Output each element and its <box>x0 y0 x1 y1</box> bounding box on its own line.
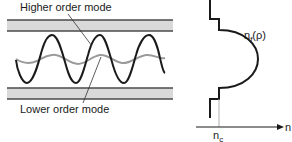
index-profile-curve <box>210 0 258 118</box>
bottom-cladding <box>7 88 173 99</box>
top-cladding <box>7 20 173 31</box>
profile-function-label: nf(ρ) <box>244 29 266 43</box>
fiber-mode-diagram <box>0 0 292 142</box>
n-axis-label: n <box>285 121 291 133</box>
lower-order-mode-label: Lower order mode <box>20 103 109 115</box>
profile-argument: (ρ) <box>252 29 266 41</box>
higher-order-mode-label: Higher order mode <box>20 1 112 13</box>
n-axis-arrowhead-icon <box>277 124 284 130</box>
nc-subscript: c <box>219 135 223 142</box>
nc-label: nc <box>213 129 223 142</box>
